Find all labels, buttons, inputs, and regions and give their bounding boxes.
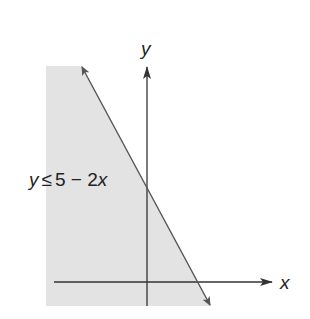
inequality-rhs-var: x [97,169,109,190]
y-axis-label: y [139,38,152,59]
graph-svg: y x y≤5 − 2x [0,0,310,319]
x-axis-label: x [279,272,291,293]
inequality-label: y≤5 − 2x [27,169,109,190]
inequality-graph: y x y≤5 − 2x [0,0,310,319]
inequality-leq: ≤ [42,169,52,190]
inequality-rhs-const: 5 − 2 [55,169,98,190]
inequality-y: y [27,169,40,190]
